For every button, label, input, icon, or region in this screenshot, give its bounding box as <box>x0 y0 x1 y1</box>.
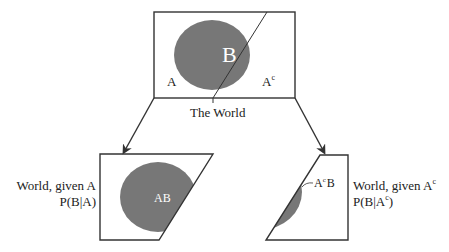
panel-given-ac: AcB World, given Ac P(B|Ac) <box>218 154 436 240</box>
given-ac-shape <box>266 155 348 240</box>
arrow-to-given-ac <box>295 98 324 152</box>
given-a-title: World, given A <box>17 178 97 193</box>
ab-label: AB <box>154 191 171 205</box>
world-caption: The World <box>190 105 246 120</box>
event-b-ellipse <box>174 20 250 90</box>
world-box: B A Ac The World <box>154 12 295 120</box>
panel-given-a: AB World, given A P(B|A) <box>17 154 213 240</box>
given-ac-title: World, given Ac <box>353 177 436 193</box>
acb-region <box>218 154 302 230</box>
conditional-probability-diagram: B A Ac The World AB World, given A P(B|A… <box>0 0 449 252</box>
given-ac-formula: P(B|Ac) <box>353 193 393 209</box>
region-a-label: A <box>167 74 177 89</box>
acb-label: AcB <box>314 176 335 190</box>
given-a-formula: P(B|A) <box>59 194 96 209</box>
acb-leader-line <box>302 183 313 187</box>
region-ac-label: Ac <box>262 73 275 89</box>
event-b-label: B <box>222 42 237 67</box>
arrow-to-given-a <box>124 98 154 152</box>
